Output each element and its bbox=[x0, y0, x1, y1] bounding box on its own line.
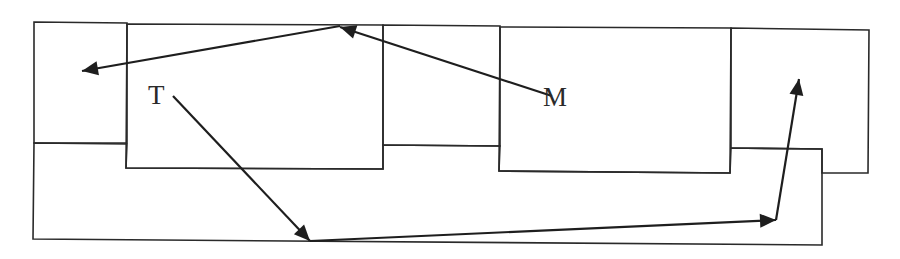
right-cell-region bbox=[731, 28, 869, 173]
bottom-band-region bbox=[33, 143, 822, 245]
arrow-bottom-to-right bbox=[310, 220, 776, 241]
regions-group bbox=[33, 22, 869, 245]
arrowhead-icon bbox=[82, 61, 99, 75]
arrow-top-to-left bbox=[82, 26, 340, 71]
arrow-m-to-top bbox=[340, 27, 552, 96]
arrows-group bbox=[82, 25, 803, 241]
arrowhead-icon bbox=[790, 79, 804, 96]
label-m: M bbox=[543, 82, 567, 112]
arrowhead-icon bbox=[340, 25, 357, 38]
arrowhead-icon bbox=[760, 214, 776, 228]
box-t-region bbox=[126, 24, 383, 169]
middle-cell-region bbox=[383, 25, 500, 146]
flow-diagram: T M bbox=[0, 0, 900, 259]
left-cell-region bbox=[34, 22, 127, 143]
box-m-region bbox=[499, 27, 731, 173]
label-t: T bbox=[148, 80, 165, 110]
